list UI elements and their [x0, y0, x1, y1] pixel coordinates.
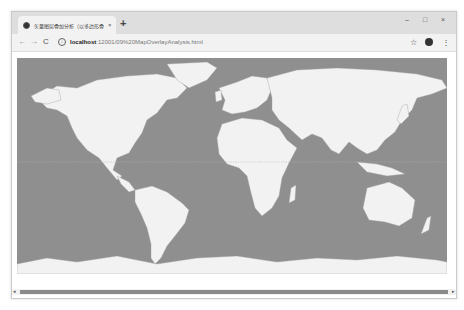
page-content: ◂ ▸ — [12, 52, 456, 298]
landmass-australia — [363, 182, 415, 226]
globe-icon — [23, 22, 30, 29]
site-info-icon[interactable]: i — [58, 38, 66, 46]
landmass-south-america — [135, 186, 189, 264]
browser-window: 矢量图层叠加分析（以多边形叠加… × + – □ × ← → C i local… — [11, 11, 457, 299]
landmass-uk — [215, 90, 222, 102]
back-button[interactable]: ← — [18, 37, 26, 46]
land-layer — [17, 62, 447, 274]
scroll-left-arrow[interactable]: ◂ — [13, 288, 16, 294]
reload-button[interactable]: C — [43, 37, 49, 46]
landmass-africa — [217, 118, 297, 216]
url-path: :12001/09%20MapOverlayAnalysis.html — [96, 39, 202, 45]
new-tab-button[interactable]: + — [120, 17, 126, 29]
address-bar[interactable]: i localhost:12001/09%20MapOverlayAnalysi… — [58, 36, 398, 48]
tab-map-overlay[interactable]: 矢量图层叠加分析（以多边形叠加… × — [18, 16, 116, 34]
menu-icon[interactable]: ⋮ — [442, 38, 450, 47]
landmass-asia — [267, 68, 447, 154]
landmass-madagascar — [289, 185, 296, 203]
tab-title: 矢量图层叠加分析（以多边形叠加… — [34, 22, 104, 29]
close-window-button[interactable]: × — [436, 16, 450, 23]
url-text[interactable]: localhost:12001/09%20MapOverlayAnalysis.… — [70, 39, 203, 45]
url-host: localhost — [70, 39, 96, 45]
scroll-right-arrow[interactable]: ▸ — [452, 288, 455, 294]
horizontal-scrollbar[interactable]: ◂ ▸ — [12, 289, 456, 295]
landmass-north-america — [37, 74, 187, 180]
scrollbar-thumb[interactable] — [20, 290, 448, 294]
profile-avatar[interactable] — [425, 38, 433, 46]
forward-button[interactable]: → — [30, 37, 38, 46]
tab-strip: 矢量图层叠加分析（以多边形叠加… × + – □ × — [12, 12, 456, 34]
bookmark-star-icon[interactable]: ☆ — [410, 38, 417, 47]
landmass-central-america — [117, 176, 135, 192]
maximize-button[interactable]: □ — [418, 16, 432, 23]
browser-toolbar: ← → C i localhost:12001/09%20MapOverlayA… — [12, 34, 456, 52]
map-canvas[interactable] — [17, 58, 447, 274]
tab-close-icon[interactable]: × — [108, 22, 112, 28]
landmass-antarctica — [17, 256, 447, 274]
minimize-button[interactable]: – — [400, 16, 414, 23]
landmass-indonesia — [357, 162, 405, 176]
landmass-europe — [219, 76, 272, 114]
world-map[interactable] — [17, 58, 447, 274]
landmass-new-zealand — [421, 216, 431, 234]
